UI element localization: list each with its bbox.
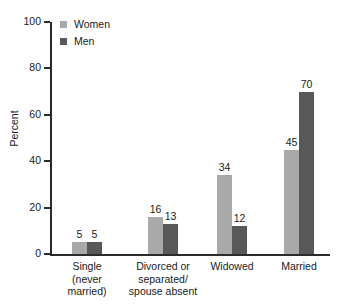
y-axis-tick-value: 0 [0,248,41,259]
y-axis-tick-label: 60 [0,109,41,120]
bar-value-label: 12 [234,213,246,224]
bar-men[interactable]: 70 [299,92,314,254]
bar-value-label: 70 [301,79,313,90]
bar-value-label: 5 [77,229,83,240]
bar-group-bars: 3412 [217,22,247,254]
bar-men[interactable]: 13 [163,224,178,254]
bar-group: 1613 [148,22,178,254]
bar-group-bars: 1613 [148,22,178,254]
bar-women[interactable]: 5 [72,242,87,254]
bar-value-label: 5 [92,229,98,240]
bar-value-label: 34 [219,162,231,173]
bar-value-label: 13 [165,211,177,222]
bar-men[interactable]: 5 [87,242,102,254]
bar-value-label: 45 [286,137,298,148]
y-axis-tick [44,160,50,162]
plot-area: 55161334124570 [52,22,330,254]
y-axis-tick [44,207,50,209]
bar-group: 3412 [217,22,247,254]
bar-group: 4570 [284,22,314,254]
category-label: Married [249,260,341,273]
y-axis-tick-value: 20 [0,202,41,213]
grouped-bar-chart: 020406080100 Percent WomenMen 5516133412… [0,0,341,308]
bar-group-bars: 55 [72,22,102,254]
y-axis-title: Percent [9,99,20,159]
bar-group: 55 [72,22,102,254]
y-axis-tick [44,114,50,116]
bar-men[interactable]: 12 [232,226,247,254]
y-axis-tick-value: 40 [0,155,41,166]
y-axis-tick-value: 60 [0,109,41,120]
bar-women[interactable]: 45 [284,150,299,254]
y-axis-tick [44,21,50,23]
y-axis-tick-value: 100 [0,16,41,27]
bar-women[interactable]: 34 [217,175,232,254]
bar-group-bars: 4570 [284,22,314,254]
bar-women[interactable]: 16 [148,217,163,254]
y-axis-tick-label: 100 [0,16,41,27]
y-axis-tick-label: 40 [0,155,41,166]
y-axis-tick-label: 20 [0,202,41,213]
x-axis-line [50,254,330,256]
y-axis-tick-label: 0 [0,248,41,259]
y-axis-tick [44,67,50,69]
y-axis-tick-label: 80 [0,62,41,73]
y-axis-tick-value: 80 [0,62,41,73]
bar-value-label: 16 [150,204,162,215]
